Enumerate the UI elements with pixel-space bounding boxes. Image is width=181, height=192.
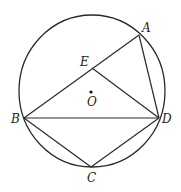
point-labels: AEOBDC [10,21,172,185]
label-point-o: O [87,95,97,109]
center-point-o [89,90,92,93]
label-point-e: E [79,55,89,69]
label-point-c: C [87,171,96,185]
label-point-b: B [10,112,20,126]
geometry-figure: AEOBDC [0,0,181,192]
label-point-d: D [161,112,172,126]
segment-ba [24,35,139,118]
label-point-a: A [141,21,151,35]
segment-bc [24,118,91,167]
